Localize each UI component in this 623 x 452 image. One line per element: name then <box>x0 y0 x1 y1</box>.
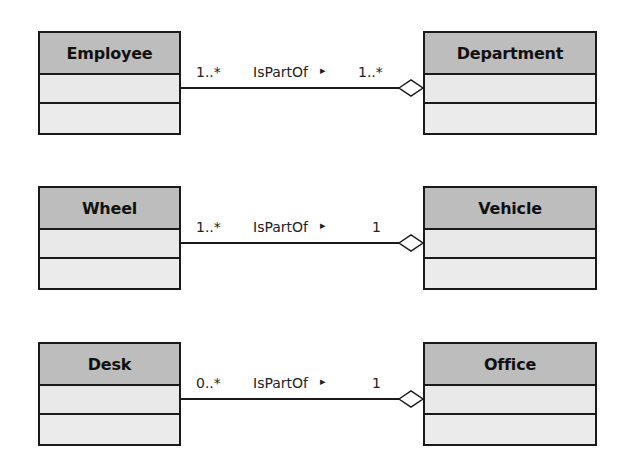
class-name: Vehicle <box>425 188 595 230</box>
aggregation-diamond-icon <box>399 391 423 407</box>
association-name: IsPartOf <box>253 219 308 235</box>
class-name: Office <box>425 344 595 386</box>
attributes-compartment <box>40 230 179 259</box>
class-wheel[interactable]: Wheel <box>38 186 181 290</box>
attributes-compartment <box>425 386 595 415</box>
attributes-compartment <box>425 75 595 104</box>
direction-arrow-icon: ▸ <box>320 64 326 77</box>
class-name: Department <box>425 33 595 75</box>
whole-multiplicity: 1 <box>372 219 381 235</box>
operations-compartment <box>40 104 179 133</box>
attributes-compartment <box>40 386 179 415</box>
operations-compartment <box>40 415 179 444</box>
part-multiplicity: 1..* <box>196 219 221 235</box>
aggregation-diamond-icon <box>399 80 423 96</box>
class-name: Desk <box>40 344 179 386</box>
whole-multiplicity: 1 <box>372 375 381 391</box>
operations-compartment <box>425 104 595 133</box>
association-name: IsPartOf <box>253 64 308 80</box>
association-name: IsPartOf <box>253 375 308 391</box>
aggregation-diamond-icon <box>399 235 423 251</box>
class-desk[interactable]: Desk <box>38 342 181 446</box>
class-employee[interactable]: Employee <box>38 31 181 135</box>
class-department[interactable]: Department <box>423 31 597 135</box>
part-multiplicity: 0..* <box>196 375 221 391</box>
whole-multiplicity: 1..* <box>358 64 383 80</box>
part-multiplicity: 1..* <box>196 64 221 80</box>
class-name: Wheel <box>40 188 179 230</box>
attributes-compartment <box>425 230 595 259</box>
direction-arrow-icon: ▸ <box>320 375 326 388</box>
operations-compartment <box>425 259 595 288</box>
class-office[interactable]: Office <box>423 342 597 446</box>
operations-compartment <box>40 259 179 288</box>
direction-arrow-icon: ▸ <box>320 219 326 232</box>
attributes-compartment <box>40 75 179 104</box>
class-vehicle[interactable]: Vehicle <box>423 186 597 290</box>
operations-compartment <box>425 415 595 444</box>
class-name: Employee <box>40 33 179 75</box>
